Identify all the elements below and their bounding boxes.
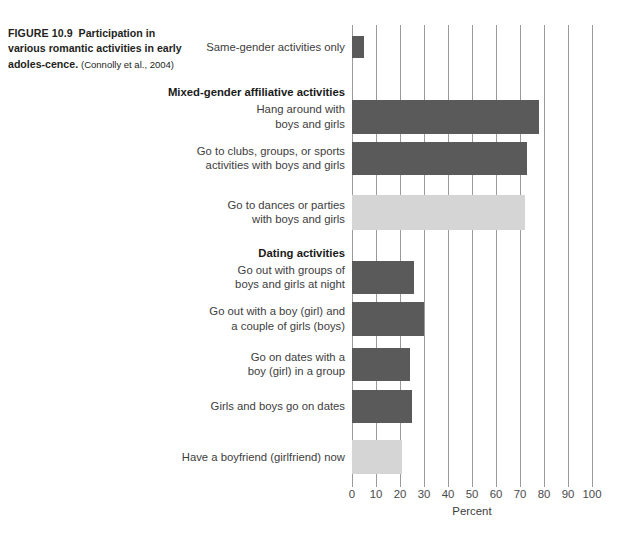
gridline bbox=[424, 25, 425, 478]
bar bbox=[352, 142, 527, 175]
section-header: Mixed-gender affiliative activities bbox=[65, 85, 345, 100]
category-label: Same-gender activities only bbox=[65, 40, 345, 55]
bar bbox=[352, 100, 539, 134]
category-label: Go out with groups of boys and girls at … bbox=[65, 263, 345, 293]
category-label: Go to dances or parties with boys and gi… bbox=[65, 198, 345, 228]
gridline bbox=[472, 25, 473, 478]
bar bbox=[352, 261, 414, 294]
x-axis-tick-label: 100 bbox=[572, 488, 612, 500]
bar-chart: 0102030405060708090100Same-gender activi… bbox=[0, 0, 629, 541]
plot-area bbox=[352, 25, 592, 478]
category-label: Go out with a boy (girl) and a couple of… bbox=[65, 304, 345, 334]
x-axis-tick bbox=[376, 478, 377, 487]
x-axis-tick bbox=[448, 478, 449, 487]
category-label: Hang around with boys and girls bbox=[65, 102, 345, 132]
gridline bbox=[592, 25, 593, 478]
x-axis-tick bbox=[400, 478, 401, 487]
category-label: Go to clubs, groups, or sports activitie… bbox=[65, 144, 345, 174]
section-header: Dating activities bbox=[65, 246, 345, 261]
x-axis-title: Percent bbox=[352, 505, 592, 517]
bar bbox=[352, 440, 402, 474]
x-axis-tick bbox=[568, 478, 569, 487]
gridline bbox=[448, 25, 449, 478]
gridline bbox=[520, 25, 521, 478]
x-axis-tick bbox=[424, 478, 425, 487]
bar bbox=[352, 348, 410, 381]
x-axis-tick bbox=[472, 478, 473, 487]
bar bbox=[352, 302, 424, 336]
bar bbox=[352, 36, 364, 58]
x-axis-tick bbox=[352, 478, 353, 487]
category-label: Girls and boys go on dates bbox=[65, 399, 345, 414]
x-axis-tick bbox=[544, 478, 545, 487]
category-label: Have a boyfriend (girlfriend) now bbox=[65, 450, 345, 465]
x-axis-tick bbox=[592, 478, 593, 487]
bar bbox=[352, 195, 525, 230]
x-axis-tick bbox=[496, 478, 497, 487]
gridline bbox=[568, 25, 569, 478]
gridline bbox=[496, 25, 497, 478]
gridline bbox=[544, 25, 545, 478]
category-label: Go on dates with a boy (girl) in a group bbox=[65, 350, 345, 380]
x-axis-tick bbox=[520, 478, 521, 487]
bar bbox=[352, 390, 412, 423]
